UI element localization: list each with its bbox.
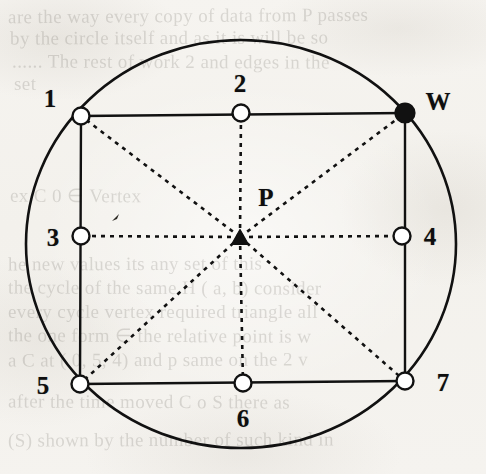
point-label-pP: P xyxy=(258,185,273,210)
point-marker-p2[interactable] xyxy=(233,105,250,122)
point-marker-p6[interactable] xyxy=(235,375,252,392)
dashed-spokes-group xyxy=(80,113,405,384)
point-label-p3: 3 xyxy=(47,225,60,250)
point-label-p4: 4 xyxy=(424,224,437,249)
point-marker-p3[interactable] xyxy=(73,228,90,245)
dashed-spoke-to-p4 xyxy=(240,236,402,237)
point-label-pW: W xyxy=(426,89,451,114)
center-triangle-marker-P[interactable] xyxy=(232,230,249,245)
point-label-p5: 5 xyxy=(37,373,50,398)
point-label-p6: 6 xyxy=(237,406,250,431)
point-label-p2: 2 xyxy=(234,71,247,96)
dashed-spoke-to-p2 xyxy=(240,113,241,237)
dashed-spoke-to-p7 xyxy=(240,237,405,381)
point-label-p1: 1 xyxy=(44,86,57,111)
dashed-spoke-to-p6 xyxy=(240,237,243,383)
point-label-p7: 7 xyxy=(437,370,450,395)
point-marker-p5[interactable] xyxy=(72,376,89,393)
point-marker-p7[interactable] xyxy=(397,373,414,390)
rect-edge-left xyxy=(80,116,81,384)
figure-container: are the way every copy of data from P pa… xyxy=(0,0,486,474)
dashed-spoke-to-p3 xyxy=(81,236,240,237)
dashed-spoke-to-p1 xyxy=(81,116,240,237)
dashed-spoke-to-p5 xyxy=(80,237,240,384)
point-marker-pW[interactable] xyxy=(396,104,415,123)
point-marker-p4[interactable] xyxy=(394,228,411,245)
ink-fleck-artifact xyxy=(112,214,119,221)
dashed-spoke-to-pW xyxy=(240,113,405,237)
print-artifact-group xyxy=(112,214,119,221)
point-marker-p1[interactable] xyxy=(73,108,90,125)
